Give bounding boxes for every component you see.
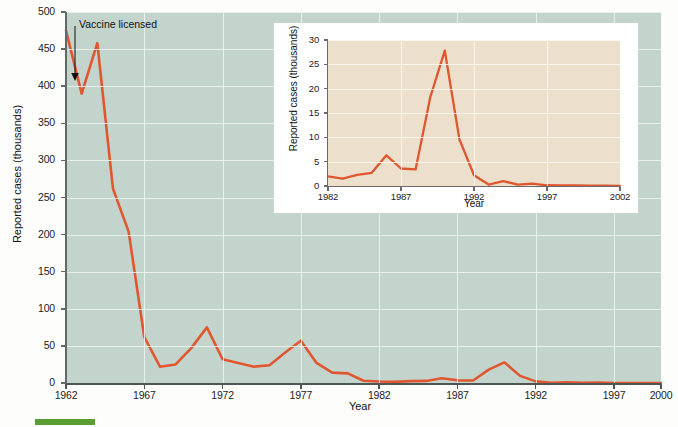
- inset-y-tick-mark: [324, 88, 328, 89]
- gridline-vertical: [144, 12, 145, 383]
- inset-plot-area: [328, 40, 620, 186]
- x-tick-label: 1972: [203, 389, 243, 401]
- x-tick-label: 1987: [437, 389, 477, 401]
- y-tick-label: 300: [21, 153, 55, 165]
- y-tick-mark: [61, 197, 66, 199]
- inset-gridline-vertical: [547, 40, 548, 186]
- main-y-axis-label: Reported cases (thousands): [11, 34, 23, 314]
- inset-gridline-vertical: [401, 40, 402, 186]
- x-tick-label: 1992: [516, 389, 556, 401]
- y-tick-mark: [61, 85, 66, 87]
- y-tick-label: 150: [21, 265, 55, 277]
- x-tick-label: 1962: [46, 389, 86, 401]
- gridline-horizontal: [66, 12, 661, 13]
- y-tick-mark: [61, 271, 66, 273]
- y-tick-label: 500: [21, 5, 55, 17]
- inset-x-tick-label: 2002: [602, 191, 638, 202]
- y-tick-label: 0: [21, 376, 55, 388]
- y-tick-label: 400: [21, 79, 55, 91]
- inset-x-tick-label: 1982: [310, 191, 346, 202]
- inset-x-tick-label: 1997: [529, 191, 565, 202]
- inset-y-tick-mark: [324, 64, 328, 65]
- inset-chart-box: 051015202530 19821987199219972002 Report…: [274, 23, 638, 213]
- y-tick-mark: [61, 234, 66, 236]
- y-tick-label: 350: [21, 116, 55, 128]
- inset-x-axis-label: Year: [434, 198, 514, 209]
- gridline-horizontal: [66, 346, 661, 347]
- y-tick-label: 250: [21, 191, 55, 203]
- inset-y-tick-label: 0: [293, 180, 319, 191]
- inset-y-tick-mark: [324, 39, 328, 40]
- gridline-horizontal: [66, 309, 661, 310]
- y-tick-label: 100: [21, 302, 55, 314]
- inset-gridline-vertical: [474, 40, 475, 186]
- page-margin-green-bar: [35, 419, 95, 425]
- inset-x-tick-label: 1987: [383, 191, 419, 202]
- figure-root: 050100150200250300350400450500 196219671…: [0, 0, 678, 427]
- y-tick-mark: [61, 308, 66, 310]
- gridline-horizontal: [66, 235, 661, 236]
- y-tick-mark: [61, 160, 66, 162]
- gridline-vertical: [223, 12, 224, 383]
- inset-y-axis-label: Reported cases (thousands): [288, 14, 299, 164]
- x-tick-label: 1967: [124, 389, 164, 401]
- x-tick-label: 2000: [641, 389, 678, 401]
- main-x-axis: [65, 383, 661, 385]
- y-tick-label: 50: [21, 339, 55, 351]
- y-tick-label: 450: [21, 42, 55, 54]
- inset-y-tick-mark: [324, 112, 328, 113]
- y-tick-mark: [61, 345, 66, 347]
- y-tick-mark: [61, 123, 66, 125]
- inset-y-tick-mark: [324, 161, 328, 162]
- x-tick-label: 1997: [594, 389, 634, 401]
- main-x-axis-label: Year: [300, 400, 420, 412]
- y-tick-mark: [61, 48, 66, 50]
- annotation-arrow-icon: [70, 26, 94, 88]
- gridline-horizontal: [66, 272, 661, 273]
- y-tick-label: 200: [21, 228, 55, 240]
- y-tick-mark: [61, 11, 66, 13]
- inset-y-tick-mark: [324, 137, 328, 138]
